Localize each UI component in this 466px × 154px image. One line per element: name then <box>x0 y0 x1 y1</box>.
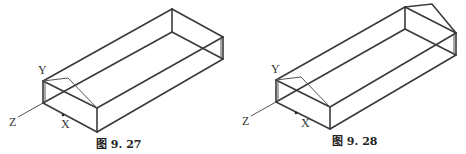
edge <box>97 59 223 132</box>
box-wireframe <box>276 7 456 129</box>
edge <box>276 29 405 102</box>
edge <box>405 29 456 55</box>
z-axis-label: Z <box>9 115 16 129</box>
edge <box>276 80 330 107</box>
x-axis-marker <box>295 112 298 115</box>
edge <box>43 103 97 132</box>
edge <box>172 9 223 37</box>
edge <box>405 7 456 33</box>
z-axis-line <box>18 103 43 117</box>
z-axis-label: Z <box>242 114 249 128</box>
x-axis-marker <box>62 114 65 117</box>
figure-9-28: Y Z X 图 9. 28 <box>242 4 456 148</box>
edge <box>330 55 456 129</box>
y-axis-label: Y <box>271 62 280 76</box>
edge <box>43 81 97 108</box>
edge <box>330 33 456 107</box>
edge <box>276 7 405 80</box>
edge <box>172 32 223 59</box>
figure-9-27: Y Z X 图 9. 27 <box>9 9 223 151</box>
z-axis-line <box>251 102 276 116</box>
figure-caption: 图 9. 27 <box>96 138 141 151</box>
box-wireframe <box>43 9 223 132</box>
y-axis-label: Y <box>38 63 47 77</box>
diagram-canvas: Y Z X 图 9. 27 Y Z X 图 9. 28 <box>0 0 466 154</box>
edge <box>43 32 172 103</box>
figure-caption: 图 9. 28 <box>332 135 378 148</box>
edge <box>97 37 223 108</box>
x-axis-label: X <box>301 116 310 130</box>
x-axis-label: X <box>61 117 70 131</box>
edge <box>43 9 172 81</box>
